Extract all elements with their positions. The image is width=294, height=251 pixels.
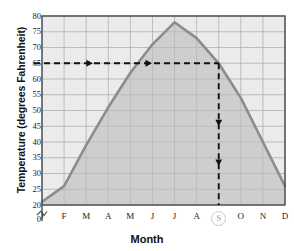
- plot-area: [0, 0, 294, 251]
- temperature-line-chart: Temperature (degrees Fahrenheit) Month 0…: [0, 0, 294, 251]
- axis-break-icon: [37, 205, 47, 221]
